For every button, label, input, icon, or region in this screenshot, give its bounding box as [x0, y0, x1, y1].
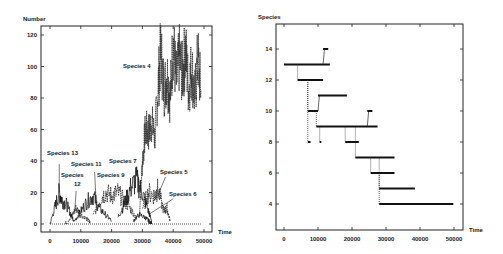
x-tick-label: 10000 — [72, 238, 89, 244]
x-tick-label: 10000 — [310, 236, 327, 242]
y-tick-label: 4 — [269, 201, 273, 207]
y-tick-label: 14 — [265, 46, 272, 52]
annotation-label: Species 7 — [109, 158, 137, 164]
x-tick-label: 50000 — [446, 236, 463, 242]
series-line-species-4 — [139, 24, 201, 217]
x-tick-label: 30000 — [378, 236, 395, 242]
x-tick-label: 20000 — [103, 238, 120, 244]
species-count-chart: 46810121401000020000300004000050000Speci… — [258, 14, 484, 242]
y-tick-label: 40 — [30, 158, 37, 164]
x-tick-label: 20000 — [344, 236, 361, 242]
annotation-label: Species 5 — [160, 169, 188, 175]
y-tick-label: 100 — [27, 64, 38, 70]
annotation-label: Species — [61, 172, 84, 178]
x-tick-label: 30000 — [134, 238, 151, 244]
y-tick-label: 80 — [30, 95, 37, 101]
x-tick-label: 40000 — [412, 236, 429, 242]
y-axis-label: Species — [258, 14, 281, 20]
annotation-label: Species 9 — [97, 172, 125, 178]
y-tick-label: 6 — [269, 170, 273, 176]
figure: 0204060801001200100002000030000400005000… — [0, 0, 503, 254]
y-tick-label: 0 — [34, 221, 38, 227]
series-line-species-6 — [133, 212, 151, 224]
annotation-label: Species 4 — [123, 63, 151, 69]
y-tick-label: 60 — [30, 127, 37, 133]
annotation-label: Species 11 — [71, 161, 102, 167]
annotation-label: 12 — [74, 181, 81, 187]
annotation-leader — [149, 199, 174, 215]
y-axis-label: Number — [23, 16, 46, 22]
y-tick-label: 12 — [265, 77, 272, 83]
annotation-label: Species 13 — [47, 150, 79, 156]
y-tick-label: 120 — [27, 32, 38, 38]
x-axis-label: Time — [469, 227, 484, 233]
x-tick-label: 50000 — [196, 238, 213, 244]
population-chart: 0204060801001200100002000030000400005000… — [23, 16, 233, 244]
y-tick-label: 10 — [265, 108, 272, 114]
x-tick-label: 40000 — [165, 238, 182, 244]
annotation-label: Species 6 — [169, 191, 197, 197]
transition-line — [323, 49, 324, 65]
x-axis-label: Time — [218, 229, 233, 235]
annotation-leader — [158, 177, 166, 196]
transition-line — [367, 111, 368, 127]
y-tick-label: 8 — [269, 139, 273, 145]
x-tick-label: 0 — [282, 236, 286, 242]
y-tick-label: 20 — [30, 190, 37, 196]
transition-line — [318, 96, 319, 112]
x-tick-label: 0 — [48, 238, 52, 244]
series-line-species-5 — [142, 179, 170, 221]
